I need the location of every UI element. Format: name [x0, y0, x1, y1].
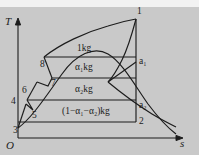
plot-canvas	[0, 0, 199, 155]
ts-diagram-figure: T s O 1 a₁ a₂ 2 3 4 5 6 7 8 1kg α₁kg α₂k…	[0, 0, 199, 155]
y-axis-arrow	[15, 18, 20, 25]
point-label-7: 7	[51, 79, 56, 89]
point-label-8: 8	[40, 60, 45, 70]
point-label-1: 1	[137, 7, 142, 17]
point-label-5: 5	[32, 111, 37, 121]
region-label-alpha2kg: α₂kg	[75, 85, 93, 95]
segment-7-to-8	[44, 57, 52, 78]
point-label-a2: a₂	[139, 101, 147, 111]
segment-5-to-6	[27, 82, 37, 100]
segment-6-to-7	[37, 78, 52, 86]
region-label-remainder-kg: (1−α₁−α₂)kg	[62, 107, 110, 117]
point-label-6: 6	[22, 86, 27, 96]
point-label-4: 4	[11, 97, 16, 107]
region-label-alpha1kg: α₁kg	[75, 63, 93, 73]
point-label-a1: a₁	[139, 57, 147, 67]
point-label-2: 2	[139, 117, 144, 127]
origin-label: O	[6, 140, 14, 151]
region-label-1kg: 1kg	[77, 44, 91, 54]
segment-4-to-5	[26, 100, 33, 110]
point-label-3: 3	[13, 126, 18, 136]
y-axis-label: T	[5, 16, 11, 27]
x-axis-label: s	[180, 138, 184, 149]
